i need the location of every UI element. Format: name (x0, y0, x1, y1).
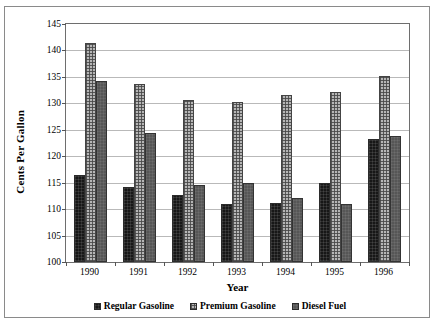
x-axis-tick-mark (66, 262, 67, 266)
bar-regular-gasoline-1992 (172, 195, 183, 262)
x-axis-tick-label-1994: 1994 (276, 267, 295, 277)
bar-premium-gasoline-1990 (85, 43, 96, 262)
y-axis-tick-mark (62, 183, 66, 184)
bar-premium-gasoline-1991 (134, 84, 145, 262)
legend-swatch-icon (292, 303, 299, 310)
legend-item-diesel-fuel: Diesel Fuel (292, 301, 347, 311)
legend-label: Diesel Fuel (302, 301, 347, 311)
y-axis-tick-mark (62, 130, 66, 131)
x-axis-tick-mark (213, 262, 214, 266)
bar-diesel-fuel-1995 (341, 204, 352, 262)
x-axis-tick-label-1991: 1991 (129, 267, 148, 277)
x-axis-tick-label-1995: 1995 (325, 267, 344, 277)
bar-premium-gasoline-1995 (330, 92, 341, 262)
x-axis-tick-mark (409, 262, 410, 266)
x-axis-title: Year (65, 281, 410, 293)
bar-diesel-fuel-1996 (390, 136, 401, 262)
bar-regular-gasoline-1990 (74, 175, 85, 262)
legend-label: Regular Gasoline (104, 301, 174, 311)
y-axis-tick-mark (62, 156, 66, 157)
x-axis-tick-label-1993: 1993 (227, 267, 246, 277)
bar-regular-gasoline-1993 (221, 204, 232, 262)
y-axis-tick-label: 135 (15, 72, 61, 82)
y-axis-tick-mark (62, 236, 66, 237)
x-axis-tick-label-1990: 1990 (80, 267, 99, 277)
bar-regular-gasoline-1991 (123, 187, 134, 262)
y-axis-tick-mark (62, 24, 66, 25)
x-axis-tick-mark (115, 262, 116, 266)
y-axis-tick-label: 115 (15, 178, 61, 188)
bar-diesel-fuel-1994 (292, 198, 303, 262)
legend-item-regular-gasoline: Regular Gasoline (94, 301, 174, 311)
chart-figure: Cents Per Gallon 10010511011512012513013… (4, 6, 430, 318)
bar-diesel-fuel-1993 (243, 183, 254, 262)
legend-swatch-icon (94, 303, 101, 310)
legend-swatch-icon (190, 303, 197, 310)
plot-area: 100105110115120125130135140145 (65, 23, 410, 263)
x-axis-tick-mark (311, 262, 312, 266)
bar-premium-gasoline-1994 (281, 95, 292, 262)
y-axis-tick-mark (62, 103, 66, 104)
bar-regular-gasoline-1994 (270, 203, 281, 262)
bar-diesel-fuel-1991 (145, 133, 156, 262)
y-axis-tick-label: 125 (15, 125, 61, 135)
x-axis-tick-mark (164, 262, 165, 266)
chart-legend: Regular GasolinePremium GasolineDiesel F… (45, 301, 395, 311)
y-axis-tick-label: 120 (15, 151, 61, 161)
x-axis-tick-mark (360, 262, 361, 266)
y-axis-tick-label: 130 (15, 98, 61, 108)
legend-item-premium-gasoline: Premium Gasoline (190, 301, 276, 311)
y-axis-tick-mark (62, 50, 66, 51)
y-axis-tick-mark (62, 77, 66, 78)
y-axis-tick-mark (62, 209, 66, 210)
bar-regular-gasoline-1996 (368, 139, 379, 262)
y-axis-tick-label: 145 (15, 19, 61, 29)
y-axis-tick-label: 105 (15, 231, 61, 241)
bar-series-container (66, 24, 409, 262)
x-axis-tick-mark (262, 262, 263, 266)
x-axis-tick-label-1996: 1996 (374, 267, 393, 277)
bar-premium-gasoline-1996 (379, 76, 390, 262)
bar-diesel-fuel-1992 (194, 185, 205, 262)
bar-regular-gasoline-1995 (319, 183, 330, 262)
y-axis-tick-label: 100 (15, 257, 61, 267)
bar-premium-gasoline-1992 (183, 100, 194, 262)
x-axis-tick-label-1992: 1992 (178, 267, 197, 277)
y-axis-tick-label: 140 (15, 45, 61, 55)
legend-label: Premium Gasoline (200, 301, 276, 311)
bar-diesel-fuel-1990 (96, 81, 107, 262)
y-axis-tick-label: 110 (15, 204, 61, 214)
bar-premium-gasoline-1993 (232, 102, 243, 262)
